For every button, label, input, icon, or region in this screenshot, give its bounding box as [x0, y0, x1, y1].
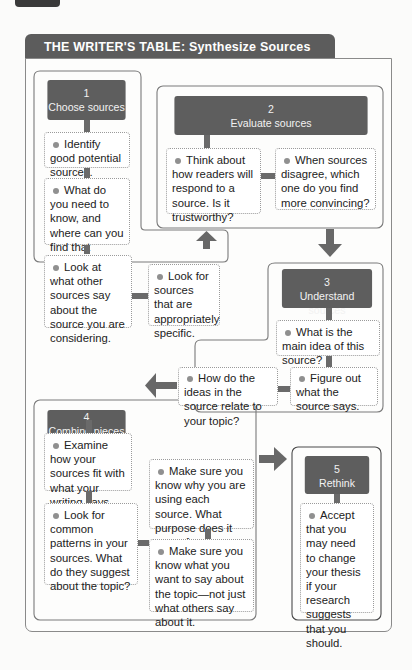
step-5-header: 5 Rethink — [305, 456, 369, 494]
connector — [86, 420, 92, 433]
bullet-icon — [158, 469, 164, 475]
bullet-icon — [158, 549, 164, 555]
bullet-icon — [309, 513, 315, 519]
step-3-number: 3 — [282, 275, 372, 289]
step-2-note-2: When sources disagree, which one do you … — [275, 148, 376, 210]
step-5-number: 5 — [305, 462, 369, 476]
step-4-note-2: Look for common patterns in your sources… — [44, 503, 138, 585]
step-3-note-3: How do the ideas in the source relate to… — [178, 367, 278, 406]
bullet-icon — [53, 142, 59, 148]
bullet-icon — [284, 158, 290, 164]
step-4-note-4: Make sure you know what you want to say … — [149, 539, 254, 612]
connector — [204, 135, 210, 148]
step-1-header: 1 Choose sources — [47, 80, 125, 120]
step-2-note-1: Think about how readers will respond to … — [166, 148, 261, 214]
connector — [326, 356, 332, 367]
arrow-up-icon — [196, 231, 217, 249]
step-1-label: Choose sources — [48, 101, 124, 113]
bullet-icon — [53, 443, 59, 449]
connector — [138, 540, 149, 546]
arrow-down-icon — [318, 229, 342, 257]
bullet-icon — [285, 330, 291, 336]
step-1-note-2: What do you need to know, and where can … — [44, 178, 130, 245]
step-5-label: Rethink — [319, 477, 355, 489]
arrow-right-icon — [259, 447, 287, 471]
bullet-icon — [187, 376, 193, 382]
step-5-note-1: Accept that you may need to change your … — [300, 503, 374, 613]
step-2-header: 2 Evaluate sources — [174, 96, 367, 135]
connector — [326, 308, 332, 320]
arrow-left-icon — [145, 373, 177, 398]
step-1-note-4: Look for sources that are appropriately … — [148, 264, 220, 326]
connector — [205, 529, 211, 539]
bullet-icon — [53, 265, 59, 271]
bullet-icon — [53, 188, 59, 194]
step-4-note-3: Make sure you know why you are using eac… — [149, 459, 254, 529]
connector — [261, 173, 275, 179]
step-2-label: Evaluate sources — [230, 117, 311, 129]
step-1-note-3: Look at what other sources say about the… — [44, 255, 132, 328]
connector — [84, 120, 90, 132]
step-3-note-2: Figure out what the source says. — [290, 367, 378, 406]
connector — [334, 494, 340, 503]
step-2-number: 2 — [174, 102, 367, 116]
bullet-icon — [53, 513, 59, 519]
connector — [132, 293, 148, 299]
connector — [84, 245, 90, 254]
bullet-icon — [157, 274, 163, 280]
connector — [278, 386, 290, 392]
step-3-note-1: What is the main idea of this source? — [276, 320, 380, 356]
bullet-icon — [299, 376, 305, 382]
bullet-icon — [175, 158, 181, 164]
connector — [84, 168, 90, 178]
step-4-note-1: Examine how your sources fit with what y… — [44, 433, 132, 491]
step-3-header: 3 Understand sources — [282, 269, 372, 308]
step-1-number: 1 — [47, 86, 125, 100]
connector — [86, 491, 92, 503]
step-1-note-1: Identify good potential sources. — [44, 132, 130, 168]
